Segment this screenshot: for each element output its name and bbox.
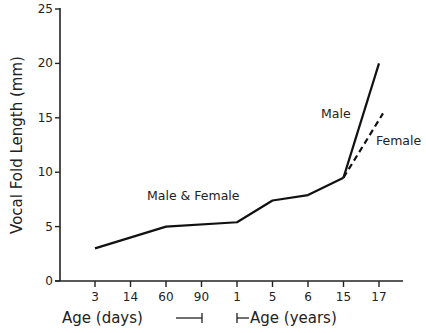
y-axis-title: Vocal Fold Length (mm): [8, 56, 26, 234]
x-tick-label: 14: [123, 290, 138, 304]
x-tick-label: 60: [158, 290, 173, 304]
y-tick-label: 20: [38, 56, 53, 70]
x-ticks: 31460901561517: [91, 281, 386, 304]
vocal-fold-length-chart: 0510152025 31460901561517 Vocal Fold Len…: [0, 0, 426, 333]
x-tick-label: 15: [336, 290, 351, 304]
days-range-bracket: [176, 313, 202, 323]
x-tick-label: 17: [371, 290, 386, 304]
y-tick-label: 25: [38, 2, 53, 16]
years-range-bracket: [237, 313, 249, 323]
y-ticks: 0510152025: [38, 2, 60, 288]
x-tick-label: 1: [233, 290, 241, 304]
x-tick-label: 6: [304, 290, 312, 304]
y-tick-label: 10: [38, 165, 53, 179]
x-axis-title-years: Age (years): [250, 309, 337, 327]
annotation-female: Female: [376, 133, 422, 148]
y-tick-label: 0: [45, 274, 53, 288]
x-tick-label: 3: [91, 290, 99, 304]
y-tick-label: 15: [38, 111, 53, 125]
annotation-male-female: Male & Female: [147, 188, 240, 203]
x-tick-label: 5: [269, 290, 277, 304]
annotation-male: Male: [321, 106, 351, 121]
y-tick-label: 5: [45, 220, 53, 234]
series-group: [95, 63, 383, 248]
axes: [55, 8, 403, 281]
x-axis-title-days: Age (days): [62, 309, 143, 327]
x-tick-label: 90: [194, 290, 209, 304]
